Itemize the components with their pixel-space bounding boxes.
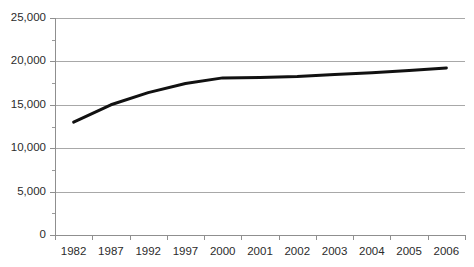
- x-axis-tick-label: 2000: [210, 245, 236, 257]
- y-axis-tick-label: 25,000: [11, 11, 46, 23]
- x-axis-tick-label: 1982: [61, 245, 87, 257]
- y-axis-tick-label: 0: [40, 228, 46, 240]
- y-axis-tick-labels: 05,00010,00015,00020,00025,000: [11, 11, 46, 240]
- x-axis-tick-label: 2001: [247, 245, 273, 257]
- x-axis-tick-label: 1997: [173, 245, 199, 257]
- x-axis-tick-label: 2003: [322, 245, 348, 257]
- x-axis-tick-label: 2005: [396, 245, 422, 257]
- x-axis-tick-label: 1987: [98, 245, 124, 257]
- x-axis-tick-label: 2004: [359, 245, 385, 257]
- x-axis-tick-label: 2002: [284, 245, 310, 257]
- y-axis-tick-label: 20,000: [11, 54, 46, 66]
- y-axis-minor-ticks: [52, 41, 55, 214]
- plot-area-background: [55, 18, 465, 235]
- line-chart: 05,00010,00015,00020,00025,000 198219871…: [0, 0, 474, 267]
- x-axis-tick-labels: 1982198719921997200020012002200320042005…: [61, 245, 459, 257]
- x-axis-tick-label: 1992: [135, 245, 161, 257]
- y-axis-tick-label: 5,000: [17, 185, 46, 197]
- chart-container: 05,00010,00015,00020,00025,000 198219871…: [0, 0, 474, 267]
- y-axis-tick-label: 10,000: [11, 141, 46, 153]
- y-axis-tick-label: 15,000: [11, 98, 46, 110]
- x-axis-tick-label: 2006: [434, 245, 460, 257]
